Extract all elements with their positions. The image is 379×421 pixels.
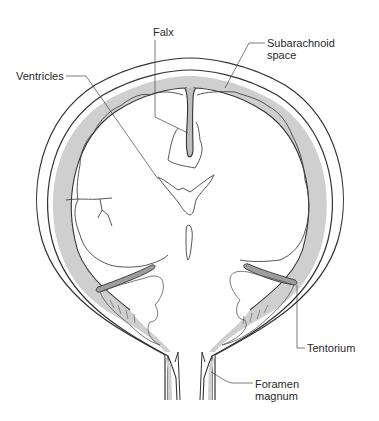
foramen-magnum-leader-line (211, 372, 253, 383)
third-and-lateral-ventricles (158, 175, 214, 215)
corpus-callosum-outline (168, 122, 202, 168)
label-foramen-line2: magnum (255, 390, 299, 402)
label-tentorium: Tentorium (307, 342, 355, 354)
label-ventricles: Ventricles (16, 70, 64, 82)
fourth-ventricle (186, 225, 192, 260)
brain-cross-section-illustration (0, 0, 379, 421)
diagram-canvas: Falx Subarachnoid space Ventricles Tento… (0, 0, 379, 421)
label-subarachnoid-space: Subarachnoid space (267, 37, 335, 61)
subarachnoid-leader-line (225, 43, 265, 88)
foramen-magnum-edges (175, 352, 205, 400)
tentorium-left (96, 265, 155, 292)
label-foramen-magnum: Foramen magnum (255, 378, 299, 402)
label-falx: Falx (153, 26, 174, 38)
label-subarachnoid-line2: space (267, 49, 335, 61)
label-subarachnoid-line1: Subarachnoid (267, 37, 335, 49)
label-foramen-line1: Foramen (255, 378, 299, 390)
left-sylvian-fissure (66, 198, 112, 226)
falx (185, 88, 196, 157)
